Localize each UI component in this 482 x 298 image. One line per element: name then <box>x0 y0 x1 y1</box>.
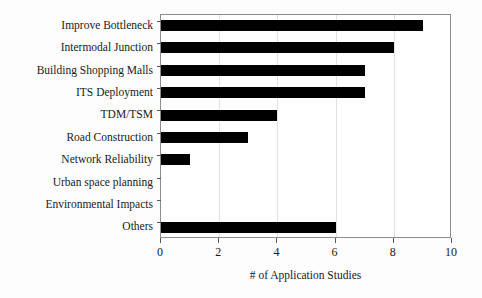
category-label: ITS Deployment <box>1 86 153 98</box>
category-label: Building Shopping Malls <box>1 64 153 76</box>
bar-row <box>161 194 452 216</box>
category-label: TDM/TSM <box>1 108 153 120</box>
x-axis-tick-label: 2 <box>198 245 238 259</box>
x-axis-tick-label: 10 <box>431 245 471 259</box>
category-label: Road Construction <box>1 131 153 143</box>
category-label: Environmental Impacts <box>1 198 153 210</box>
category-label: Network Reliability <box>1 153 153 165</box>
x-axis-tick-labels: 0246810 <box>160 245 451 261</box>
y-axis-tick <box>157 66 161 67</box>
bar <box>161 42 394 53</box>
bar-row <box>161 172 452 194</box>
bar <box>161 20 423 31</box>
x-axis-tick-label: 8 <box>373 245 413 259</box>
bar-row <box>161 60 452 82</box>
bar-row <box>161 82 452 104</box>
bar-row <box>161 217 452 239</box>
y-axis-tick <box>157 155 161 156</box>
bar <box>161 154 190 165</box>
category-axis: Improve BottleneckIntermodal JunctionBui… <box>0 14 157 238</box>
x-axis-ticks <box>160 238 451 244</box>
y-axis-tick <box>157 110 161 111</box>
y-axis-tick <box>157 200 161 201</box>
bar <box>161 87 365 98</box>
x-axis-tick <box>393 238 394 243</box>
category-label: Others <box>1 220 153 232</box>
bar-row <box>161 37 452 59</box>
category-label: Urban space planning <box>1 176 153 188</box>
x-axis-tick <box>218 238 219 243</box>
category-label: Intermodal Junction <box>1 41 153 53</box>
y-axis-tick <box>157 133 161 134</box>
bar <box>161 132 248 143</box>
bar-row <box>161 15 452 37</box>
bar-row <box>161 127 452 149</box>
y-axis-tick <box>157 178 161 179</box>
x-axis-tick <box>276 238 277 243</box>
plot-area <box>160 14 451 238</box>
y-axis-tick <box>157 43 161 44</box>
bar-row <box>161 105 452 127</box>
category-label: Improve Bottleneck <box>1 19 153 31</box>
x-axis-tick-label: 4 <box>256 245 296 259</box>
x-axis-tick <box>160 238 161 243</box>
x-axis-tick-label: 0 <box>140 245 180 259</box>
bar <box>161 65 365 76</box>
y-axis-tick <box>157 21 161 22</box>
bar <box>161 222 336 233</box>
y-axis-tick <box>157 222 161 223</box>
x-axis-tick-label: 6 <box>315 245 355 259</box>
x-axis-tick <box>451 238 452 243</box>
x-axis-tick <box>335 238 336 243</box>
y-axis-tick <box>157 88 161 89</box>
x-axis-title: # of Application Studies <box>160 268 451 282</box>
bar-chart-figure: Improve BottleneckIntermodal JunctionBui… <box>0 0 482 298</box>
bar-row <box>161 149 452 171</box>
bar <box>161 110 277 121</box>
